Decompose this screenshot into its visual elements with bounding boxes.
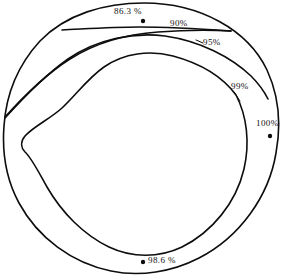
data-point-100 <box>268 134 272 138</box>
data-point-98-6 <box>141 260 145 264</box>
contour-label-98-6: 98.6 % <box>148 256 176 265</box>
contour-label-90: 90% <box>170 19 188 28</box>
contour-plot-canvas <box>0 0 289 279</box>
contour-label-95: 95% <box>203 38 221 47</box>
contour-label-86-3: 86.3 % <box>114 7 142 16</box>
data-point-86-3 <box>141 19 145 23</box>
contour-diagram-figure: 86.3 % 90% 95% 99% 100% 98.6 % <box>0 0 289 279</box>
contour-label-100: 100% <box>256 119 279 128</box>
contour-curve-100 <box>4 3 279 273</box>
contour-curve-99 <box>22 53 247 255</box>
contour-label-99: 99% <box>231 82 249 91</box>
leader-line-95 <box>196 40 203 43</box>
leader-line-99 <box>234 92 240 101</box>
contour-curve-95 <box>5 35 268 118</box>
